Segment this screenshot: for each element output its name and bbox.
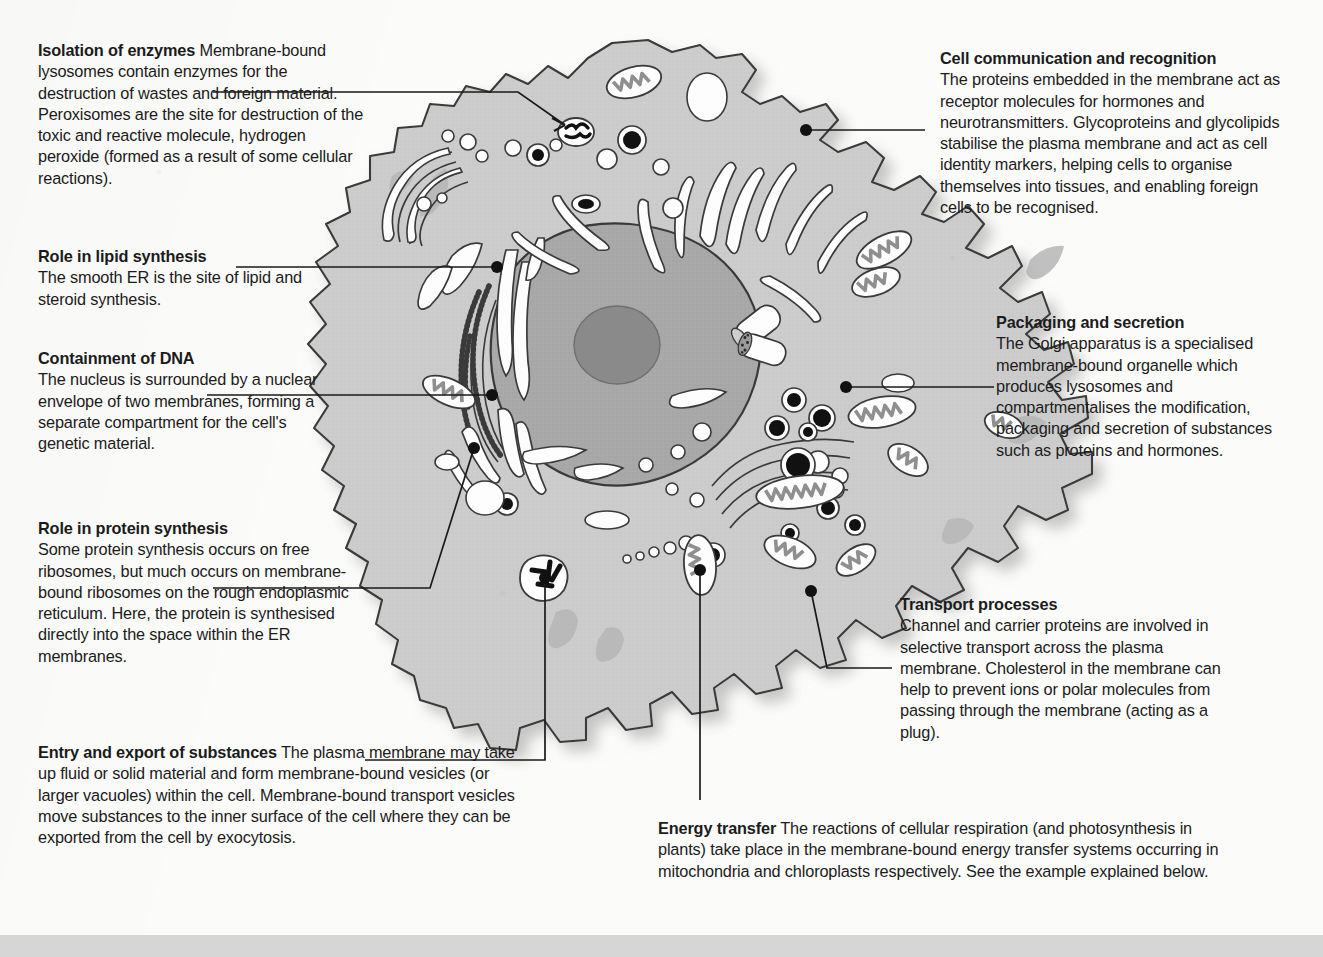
callout-role-in-lipid-synthesis: Role in lipid synthesis The smooth ER is… [38,246,338,310]
callout-heading: Energy transfer [658,819,776,837]
callout-heading: Role in lipid synthesis [38,247,206,265]
callout-heading: Packaging and secretion [996,313,1184,331]
callout-cell-communication-and-recognition: Cell communication and recognition The p… [940,48,1292,218]
callout-heading: Containment of DNA [38,349,194,367]
callout-body: Some protein synthesis occurs on free ri… [38,540,349,664]
peroxisome [558,118,594,146]
callout-heading: Role in protein synthesis [38,519,228,537]
callout-energy-transfer: Energy transfer The reactions of cellula… [658,818,1220,882]
peroxisome-secondary [572,195,600,213]
callout-role-in-protein-synthesis: Role in protein synthesis Some protein s… [38,518,376,667]
callout-entry-and-export-of-substances: Entry and export of substances The plasm… [38,742,532,848]
callout-heading: Isolation of enzymes [38,41,195,59]
callout-heading: Cell communication and recognition [940,49,1216,67]
callout-body: Channel and carrier proteins are involve… [900,616,1221,740]
callout-body: Membrane-bound lysosomes contain enzymes… [38,41,363,187]
diagram-page: Isolation of enzymes Membrane-bound lyso… [0,0,1323,957]
callout-body: The nucleus is surrounded by a nuclear e… [38,370,317,452]
callout-heading: Transport processes [900,595,1057,613]
callout-containment-of-dna: Containment of DNA The nucleus is surrou… [38,348,328,454]
callout-body: The Golgi apparatus is a specialised mem… [996,334,1272,458]
nucleolus [574,306,660,384]
callout-packaging-and-secretion: Packaging and secretion The Golgi appara… [996,312,1296,461]
callout-heading: Entry and export of substances [38,743,277,761]
page-footer-strip [0,935,1323,957]
callout-body: The smooth ER is the site of lipid and s… [38,268,302,307]
callout-isolation-of-enzymes: Isolation of enzymes Membrane-bound lyso… [38,40,368,189]
callout-transport-processes: Transport processes Channel and carrier … [900,594,1236,743]
callout-body: The proteins embedded in the membrane ac… [940,70,1280,216]
